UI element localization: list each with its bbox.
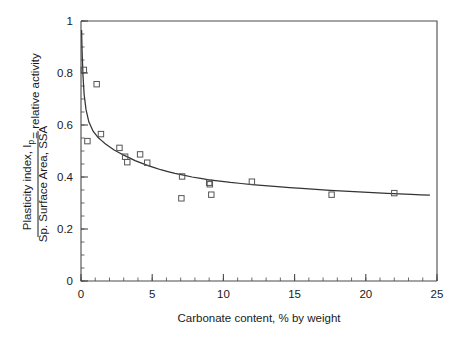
data-point xyxy=(209,192,214,197)
y-tick-label: 0.8 xyxy=(57,67,73,79)
axis-frame-top-right xyxy=(81,21,437,281)
y-tick-labels: 00.20.40.60.81 xyxy=(57,15,74,287)
data-point xyxy=(125,159,130,164)
data-point xyxy=(249,179,254,184)
data-point-group xyxy=(81,67,397,201)
plot-canvas: 0510152025 00.20.40.60.81 Carbonate cont… xyxy=(0,0,462,340)
data-point xyxy=(179,196,184,201)
data-point xyxy=(81,67,86,72)
major-tick-group xyxy=(81,21,437,281)
y-tick-label: 0 xyxy=(67,275,73,287)
x-tick-label: 0 xyxy=(78,288,84,300)
y-tick-label: 0.6 xyxy=(57,119,73,131)
y-axis-denominator: Sp. Surface Area, SSA xyxy=(37,126,49,243)
y-axis-numerator: Plasticity index, Ip xyxy=(21,140,36,231)
x-tick-label: 15 xyxy=(288,288,301,300)
chart-figure: 0510152025 00.20.40.60.81 Carbonate cont… xyxy=(0,0,462,340)
data-point xyxy=(94,81,99,86)
y-axis-title: Plasticity index, Ip Sp. Surface Area, S… xyxy=(21,53,49,242)
x-tick-label: 25 xyxy=(431,288,444,300)
x-tick-label: 10 xyxy=(217,288,230,300)
x-tick-label: 5 xyxy=(149,288,155,300)
x-tick-labels: 0510152025 xyxy=(78,288,444,300)
y-tick-label: 0.4 xyxy=(57,171,74,183)
data-point xyxy=(117,145,122,150)
x-tick-label: 20 xyxy=(359,288,372,300)
minor-tick-group xyxy=(81,21,437,281)
data-point xyxy=(137,152,142,157)
y-tick-label: 1 xyxy=(67,15,73,27)
data-point xyxy=(98,131,103,136)
data-point xyxy=(85,138,90,143)
fit-curve xyxy=(82,30,430,195)
y-tick-label: 0.2 xyxy=(57,223,73,235)
axis-frame xyxy=(81,21,437,281)
y-axis-suffix: = relative activity xyxy=(29,53,41,139)
x-axis-title: Carbonate content, % by weight xyxy=(177,312,341,324)
data-point xyxy=(329,192,334,197)
